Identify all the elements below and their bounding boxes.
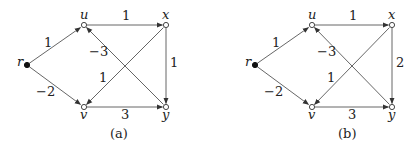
label-a-u: u (80, 7, 88, 22)
graph-a: 1 −2 1 −3 1 1 3 r u x v y (a) (17, 7, 178, 141)
weight-a-v-y: 3 (121, 107, 129, 122)
weight-a-y-u: −3 (89, 44, 108, 59)
weight-a-x-y: 1 (170, 55, 178, 70)
edge-a-r-u (29, 28, 81, 64)
weight-b-r-v: −2 (264, 84, 283, 99)
label-b-r: r (245, 54, 252, 69)
label-a-y: y (161, 107, 170, 122)
node-a-x (163, 22, 168, 27)
weight-a-r-v: −2 (36, 84, 55, 99)
weight-b-v-y: 3 (348, 107, 356, 122)
label-a-r: r (17, 54, 24, 69)
label-b-v: v (308, 107, 316, 122)
graph-diagram: 1 −2 1 −3 1 1 3 r u x v y (a) 1 −2 1 −3 … (0, 0, 417, 151)
label-b-u: u (308, 7, 316, 22)
weight-b-x-v: 1 (327, 70, 335, 85)
label-b-x: x (388, 7, 396, 22)
label-a-v: v (80, 107, 88, 122)
edge-b-r-u (257, 28, 309, 64)
label-a-x: x (162, 7, 170, 22)
weight-b-u-x: 1 (349, 8, 357, 23)
node-a-u (81, 22, 86, 27)
weight-a-r-u: 1 (44, 35, 52, 50)
node-b-u (309, 22, 314, 27)
weight-a-x-v: 1 (99, 70, 107, 85)
graph-b: 1 −2 1 −3 1 2 3 r u x v y (b) (245, 7, 404, 141)
weight-a-u-x: 1 (122, 8, 130, 23)
node-a-r (24, 62, 29, 67)
weight-b-x-y: 2 (396, 55, 404, 70)
caption-b: (b) (338, 126, 356, 141)
weight-b-y-u: −3 (317, 44, 336, 59)
caption-a: (a) (110, 126, 128, 141)
node-b-x (389, 22, 394, 27)
label-b-y: y (387, 107, 396, 122)
weight-b-r-u: 1 (272, 35, 280, 50)
node-b-r (252, 62, 257, 67)
